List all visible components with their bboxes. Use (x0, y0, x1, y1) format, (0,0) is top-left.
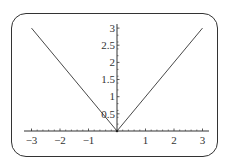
y-tick-label: 0.5 (101, 108, 115, 120)
x-tick-label: −2 (54, 134, 66, 146)
x-tick-label: 3 (200, 134, 206, 146)
x-tick-labels: −3 −2 −1 1 2 3 (26, 134, 206, 146)
y-tick-label: 3 (110, 22, 116, 34)
y-tick-label: 1.5 (101, 73, 115, 85)
x-tick-label: −3 (26, 134, 38, 146)
x-tick-label: 2 (171, 134, 177, 146)
y-tick-label: 2 (110, 56, 116, 68)
y-tick-label: 2.5 (101, 39, 115, 51)
x-tick-label: 1 (143, 134, 149, 146)
y-tick-labels: 0.5 1 1.5 2 2.5 3 (101, 22, 115, 120)
chart-plot-area: −3 −2 −1 1 2 3 0.5 1 1.5 2 2.5 3 (0, 0, 226, 165)
x-tick-label: −1 (83, 134, 95, 146)
origin-point (116, 130, 119, 133)
y-tick-label: 1 (110, 90, 116, 102)
